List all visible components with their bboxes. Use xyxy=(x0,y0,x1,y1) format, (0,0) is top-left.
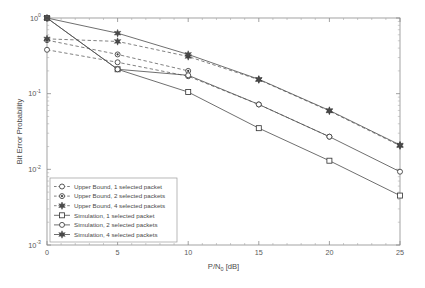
legend-label-2: Upper Bound, 4 selected packets xyxy=(74,202,165,209)
series-4-marker-3 xyxy=(256,102,261,107)
series-4-marker-2 xyxy=(186,73,191,78)
y-axis-title: Bit Error Probability xyxy=(15,99,24,165)
x-tick-label-10: 10 xyxy=(184,248,192,257)
bit-error-probability-chart: 051015202510010-110-210-3P/N0 [dB]Bit Er… xyxy=(0,0,425,288)
x-tick-label-15: 15 xyxy=(255,248,263,257)
legend-label-0: Upper Bound, 1 selected packet xyxy=(74,183,162,190)
x-tick-label-5: 5 xyxy=(116,248,120,257)
series-1-marker-1-dot xyxy=(117,53,119,55)
x-tick-label-20: 20 xyxy=(325,248,333,257)
series-0-marker-0 xyxy=(45,47,50,52)
series-4-marker-1 xyxy=(115,67,120,72)
x-tick-label-0: 0 xyxy=(45,248,49,257)
x-tick-label-25: 25 xyxy=(396,248,404,257)
series-4-marker-4 xyxy=(327,134,332,139)
chart-legend[interactable]: Upper Bound, 1 selected packetUpper Boun… xyxy=(50,178,177,242)
legend-marker-4 xyxy=(60,222,65,227)
series-0-marker-1 xyxy=(115,60,120,65)
x-axis-title: P/N0 [dB] xyxy=(208,262,239,272)
series-4-marker-5 xyxy=(398,169,403,174)
legend-label-1: Upper Bound, 2 selected packets xyxy=(74,192,165,199)
series-1-marker-2-dot xyxy=(187,70,189,72)
legend-label-4: Simulation, 2 selected packets xyxy=(74,221,158,228)
legend-marker-0 xyxy=(60,184,65,189)
legend-label-3: Simulation, 1 selected packet xyxy=(74,212,155,219)
legend-label-5: Simulation, 4 selected packets xyxy=(74,231,158,238)
series-3-marker-4 xyxy=(327,158,332,163)
series-3-marker-3 xyxy=(256,126,261,131)
series-3-marker-5 xyxy=(398,193,403,198)
figure-container: 051015202510010-110-210-3P/N0 [dB]Bit Er… xyxy=(0,0,425,288)
series-3-marker-2 xyxy=(186,90,191,95)
legend-marker-3 xyxy=(60,213,65,218)
legend-marker-1-dot xyxy=(61,195,63,197)
